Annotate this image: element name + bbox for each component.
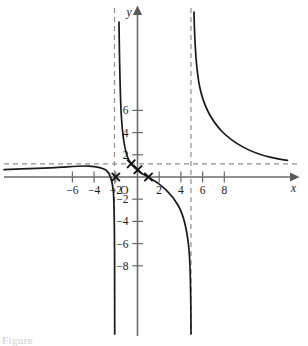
asymptote-group (4, 8, 300, 334)
graph-canvas: −6 −4 −2 2 4 6 8 6 4 2 −2 −4 −6 −8 O x y (0, 0, 308, 346)
y-axis-label: y (125, 6, 132, 19)
x-tick-label--6: −6 (66, 184, 78, 196)
x-axis-label: x (290, 182, 297, 194)
axes-group (4, 6, 300, 337)
x-axis-arrowhead (290, 172, 300, 181)
y-tick-label--4: −4 (116, 215, 128, 227)
figure-root: −6 −4 −2 2 4 6 8 6 4 2 −2 −4 −6 −8 O x y (0, 0, 308, 346)
y-axis-arrowhead (133, 6, 142, 16)
x-tick-label--4: −4 (88, 184, 100, 196)
y-tick-label--8: −8 (116, 260, 128, 272)
y-tick-label-6: 6 (123, 104, 129, 116)
figure-caption: Figure (2, 334, 33, 346)
curve-right-branch (194, 12, 288, 160)
curve-middle-branch (119, 22, 191, 334)
origin-label: O (120, 184, 128, 196)
x-tick-label-8: 8 (221, 184, 227, 196)
x-tick-label-6: 6 (200, 184, 206, 196)
x-tick-label-4: 4 (178, 184, 184, 196)
x-tick-label-group: −6 −4 −2 2 4 6 8 (66, 184, 227, 196)
y-tick-label--6: −6 (116, 238, 128, 250)
